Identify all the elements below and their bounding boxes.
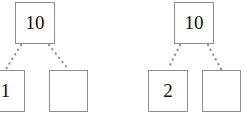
right-tree-root-node[interactable]: 10 [174, 2, 214, 44]
right-tree-edge-left-line [168, 45, 180, 69]
left-tree-left-child-label: 1 [1, 81, 11, 100]
left-tree-right-child-node[interactable] [49, 70, 88, 112]
right-tree-right-child-node[interactable] [202, 70, 241, 112]
right-tree-left-child-node[interactable]: 2 [148, 70, 188, 112]
left-tree-edge-right-line [49, 45, 68, 69]
right-tree-left-child-label: 2 [163, 81, 173, 100]
right-tree-edge-right-line [208, 45, 221, 69]
left-tree-root-node[interactable]: 10 [15, 2, 55, 44]
left-tree-left-child-node[interactable]: 1 [0, 70, 25, 112]
left-tree-edge-left-line [6, 45, 21, 69]
diagram-canvas: 10 1 10 2 [0, 0, 248, 118]
left-tree-root-label: 10 [26, 13, 45, 32]
right-tree-root-label: 10 [185, 13, 204, 32]
